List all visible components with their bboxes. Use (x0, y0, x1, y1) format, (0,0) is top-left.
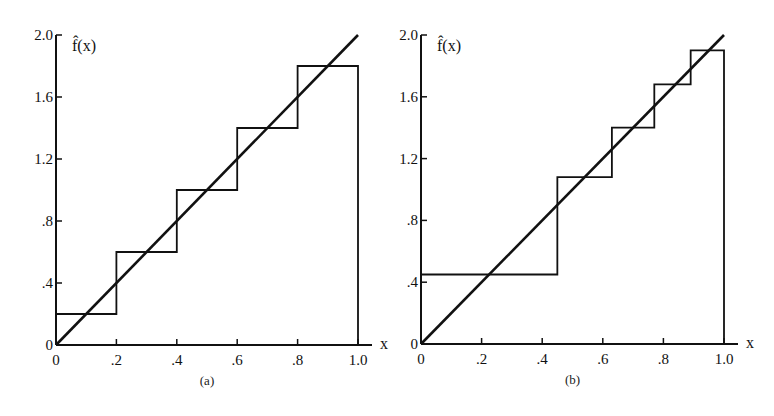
histogram-step (56, 66, 358, 345)
x-axis-label: x (746, 334, 754, 351)
chart-panel-b: 0.2.4.6.81.00.4.81.21.62.0xf̂(x)(b) (399, 27, 754, 387)
y-tick-label: 1.2 (34, 151, 53, 167)
y-tick-label: .8 (42, 213, 53, 229)
y-tick-label: .4 (42, 275, 54, 291)
density-line (421, 35, 724, 344)
y-tick-label: 0 (411, 336, 419, 352)
x-tick-label: 0 (417, 351, 425, 367)
x-tick-label: 0 (52, 352, 60, 368)
x-tick-label: .8 (658, 351, 669, 367)
histogram-step (421, 50, 724, 344)
x-tick-label: .6 (232, 352, 244, 368)
y-axis-label: f̂(x) (437, 35, 461, 55)
y-tick-label: 2.0 (34, 27, 53, 43)
y-axis-label: f̂(x) (72, 35, 96, 55)
chart-caption: (a) (200, 373, 214, 388)
x-tick-label: 1.0 (715, 351, 734, 367)
y-tick-label: 1.2 (399, 151, 418, 167)
x-tick-label: .4 (171, 352, 183, 368)
chart-caption: (b) (565, 372, 580, 387)
x-tick-label: .2 (476, 351, 487, 367)
x-tick-label: .6 (597, 351, 609, 367)
y-tick-label: 1.6 (34, 89, 53, 105)
y-tick-label: 1.6 (399, 89, 418, 105)
chart-panel-a: 0.2.4.6.81.00.4.81.21.62.0xf̂(x)(a) (34, 27, 388, 388)
figure: 0.2.4.6.81.00.4.81.21.62.0xf̂(x)(a) 0.2.… (0, 0, 774, 416)
x-tick-label: .8 (292, 352, 303, 368)
y-tick-label: .4 (407, 274, 419, 290)
y-tick-label: 0 (46, 337, 54, 353)
y-tick-label: .8 (407, 212, 418, 228)
y-tick-label: 2.0 (399, 27, 418, 43)
x-tick-label: .2 (111, 352, 122, 368)
x-tick-label: .4 (537, 351, 549, 367)
x-tick-label: 1.0 (349, 352, 368, 368)
x-axis-label: x (380, 335, 388, 352)
